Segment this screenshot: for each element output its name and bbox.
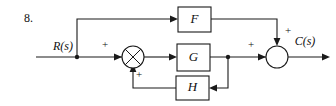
- sign-sum1-bottom: +: [136, 68, 142, 80]
- input-label: R(s): [52, 39, 73, 53]
- summing-junction-1: [122, 46, 144, 68]
- block-F: F: [178, 7, 211, 32]
- arrowhead-F-input: [170, 16, 178, 23]
- block-F-label: F: [190, 11, 200, 26]
- arrowhead-output: [322, 54, 330, 61]
- block-G: G: [177, 44, 210, 71]
- wire-F-to-sum2: [211, 19, 277, 38]
- wire-G-to-H: [217, 57, 228, 88]
- arrowhead-sum2-top: [274, 38, 281, 46]
- block-diagram-canvas: F G H 8. R(s) C(s) + + + +: [0, 0, 336, 106]
- block-H-label: H: [187, 79, 198, 94]
- sign-sum2-top: +: [285, 24, 291, 36]
- block-H: H: [176, 76, 209, 100]
- output-label: C(s): [295, 34, 316, 48]
- summing-junction-2: [266, 46, 288, 68]
- arrowhead-sum2-left: [258, 54, 266, 61]
- arrowhead-G-input: [169, 54, 177, 61]
- arrowhead-H-input: [209, 85, 217, 92]
- block-diagram-figure: F G H 8. R(s) C(s) + + + +: [0, 0, 336, 106]
- sign-sum1-left: +: [102, 38, 108, 50]
- arrowhead-sum1-left: [114, 54, 122, 61]
- sign-sum2-left: +: [248, 38, 254, 50]
- problem-number: 8.: [24, 11, 33, 25]
- block-G-label: G: [189, 49, 199, 64]
